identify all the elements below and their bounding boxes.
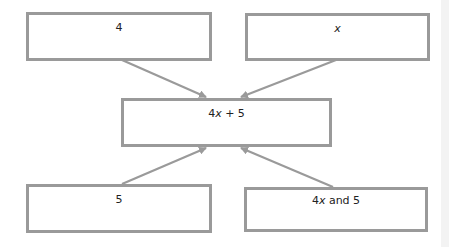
arrow-top-left-to-center [122, 60, 206, 97]
arrow-bottom-left-to-center [122, 148, 206, 184]
box-top-right: x [245, 13, 430, 61]
box-center: 4x + 5 [121, 98, 332, 147]
box-top-left: 4 [26, 12, 212, 61]
arrow-bottom-right-to-center [241, 148, 333, 187]
box-label: 4 [29, 21, 209, 34]
label-part: and 5 [325, 194, 360, 207]
box-bottom-right: 4x and 5 [244, 187, 428, 232]
box-label: 4x and 5 [247, 194, 425, 207]
arrow-top-right-to-center [241, 60, 336, 97]
label-part: + 5 [222, 107, 245, 120]
box-label: 5 [29, 193, 209, 206]
box-label: x [248, 22, 427, 35]
label-part: 4 [312, 194, 319, 207]
box-label: 4x + 5 [124, 107, 329, 120]
box-bottom-left: 5 [26, 184, 212, 233]
